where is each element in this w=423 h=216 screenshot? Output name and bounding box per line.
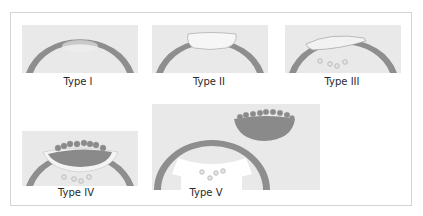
- panel-type-2: [152, 25, 268, 73]
- label-type-2: Type II: [169, 76, 249, 88]
- lens-ellipse-icon: [188, 33, 237, 50]
- diagram-canvas: [0, 0, 423, 216]
- faint-region-icon: [62, 40, 98, 52]
- panel-type-4: [22, 131, 138, 186]
- label-type-5: Type V: [166, 187, 246, 199]
- panel-type-3: [285, 25, 401, 73]
- panel-background: [285, 25, 401, 73]
- panel-type-1: [22, 25, 138, 73]
- label-type-1: Type I: [38, 76, 118, 88]
- panel-type-5: [152, 104, 320, 190]
- label-type-4: Type IV: [36, 187, 116, 199]
- label-type-3: Type III: [302, 76, 382, 88]
